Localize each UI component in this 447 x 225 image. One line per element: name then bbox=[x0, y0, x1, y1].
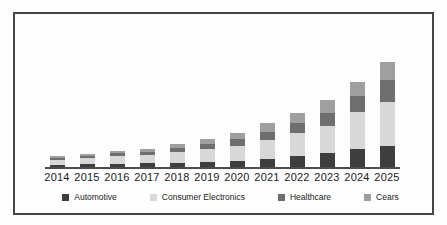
legend-label-healthcare: Healthcare bbox=[290, 192, 331, 202]
bar-2014 bbox=[50, 156, 65, 167]
bar-2020 bbox=[230, 133, 245, 167]
x-tick-2017: 2017 bbox=[130, 171, 164, 183]
bar-segment-automotive bbox=[200, 162, 215, 168]
x-tick-2021: 2021 bbox=[250, 171, 284, 183]
bar-segment-automotive bbox=[380, 146, 395, 167]
bar-segment-automotive bbox=[170, 163, 185, 168]
legend-item-consumer-electronics: Consumer Electronics bbox=[150, 192, 245, 202]
bar-segment-consumer-electronics bbox=[320, 126, 335, 153]
bar-segment-cears bbox=[320, 100, 335, 113]
bar-segment-healthcare bbox=[380, 80, 395, 102]
bar-segment-automotive bbox=[110, 164, 125, 168]
x-tick-2018: 2018 bbox=[160, 171, 194, 183]
x-tick-2015: 2015 bbox=[70, 171, 104, 183]
bar-segment-automotive bbox=[260, 159, 275, 167]
x-tick-2019: 2019 bbox=[190, 171, 224, 183]
bar-segment-consumer-electronics bbox=[350, 112, 365, 149]
bar-segment-automotive bbox=[350, 149, 365, 167]
bar-segment-automotive bbox=[50, 165, 65, 167]
bar-2021 bbox=[260, 123, 275, 167]
bar-segment-consumer-electronics bbox=[110, 156, 125, 164]
x-tick-2016: 2016 bbox=[100, 171, 134, 183]
bar-segment-healthcare bbox=[260, 132, 275, 141]
legend-label-consumer-electronics: Consumer Electronics bbox=[162, 192, 245, 202]
bar-segment-automotive bbox=[290, 156, 305, 167]
bar-segment-consumer-electronics bbox=[290, 133, 305, 156]
x-tick-2023: 2023 bbox=[310, 171, 344, 183]
bar-segment-cears bbox=[380, 62, 395, 80]
x-tick-2020: 2020 bbox=[220, 171, 254, 183]
bar-2023 bbox=[320, 100, 335, 167]
x-axis-line bbox=[45, 167, 400, 169]
legend-swatch-consumer-electronics bbox=[150, 194, 157, 201]
bar-2017 bbox=[140, 149, 155, 168]
bar-2024 bbox=[350, 82, 365, 167]
bar-segment-automotive bbox=[140, 163, 155, 167]
bar-segment-consumer-electronics bbox=[260, 140, 275, 159]
bar-2016 bbox=[110, 151, 125, 168]
legend-swatch-automotive bbox=[62, 194, 69, 201]
bar-2022 bbox=[290, 113, 305, 167]
bar-segment-consumer-electronics bbox=[380, 102, 395, 146]
chart-card: 2014201520162017201820192020202120222023… bbox=[0, 0, 447, 225]
bar-2019 bbox=[200, 139, 215, 167]
bar-2018 bbox=[170, 144, 185, 167]
legend-label-cears: Cears bbox=[376, 192, 399, 202]
bar-segment-healthcare bbox=[320, 113, 335, 126]
bar-segment-cears bbox=[290, 113, 305, 123]
bar-segment-consumer-electronics bbox=[170, 152, 185, 163]
legend-label-automotive: Automotive bbox=[74, 192, 117, 202]
plot-area: 2014201520162017201820192020202120222023… bbox=[15, 14, 432, 213]
legend: AutomotiveConsumer ElectronicsHealthcare… bbox=[15, 190, 432, 204]
legend-item-automotive: Automotive bbox=[62, 192, 117, 202]
x-tick-2014: 2014 bbox=[40, 171, 74, 183]
legend-swatch-healthcare bbox=[278, 194, 285, 201]
x-tick-2025: 2025 bbox=[370, 171, 404, 183]
x-tick-2022: 2022 bbox=[280, 171, 314, 183]
bar-segment-cears bbox=[350, 82, 365, 96]
bar-2025 bbox=[380, 62, 395, 167]
legend-swatch-cears bbox=[364, 194, 371, 201]
bar-segment-consumer-electronics bbox=[230, 146, 245, 161]
bar-segment-automotive bbox=[230, 161, 245, 168]
bar-segment-consumer-electronics bbox=[140, 155, 155, 164]
bar-segment-healthcare bbox=[290, 123, 305, 133]
chart-frame-border: 2014201520162017201820192020202120222023… bbox=[13, 12, 434, 215]
bar-segment-consumer-electronics bbox=[200, 149, 215, 162]
legend-item-healthcare: Healthcare bbox=[278, 192, 331, 202]
bar-segment-automotive bbox=[80, 164, 95, 167]
bar-segment-automotive bbox=[320, 153, 335, 167]
bar-2015 bbox=[80, 154, 95, 168]
bar-segment-cears bbox=[260, 123, 275, 132]
legend-item-cears: Cears bbox=[364, 192, 399, 202]
x-tick-2024: 2024 bbox=[340, 171, 374, 183]
bar-segment-healthcare bbox=[350, 96, 365, 112]
